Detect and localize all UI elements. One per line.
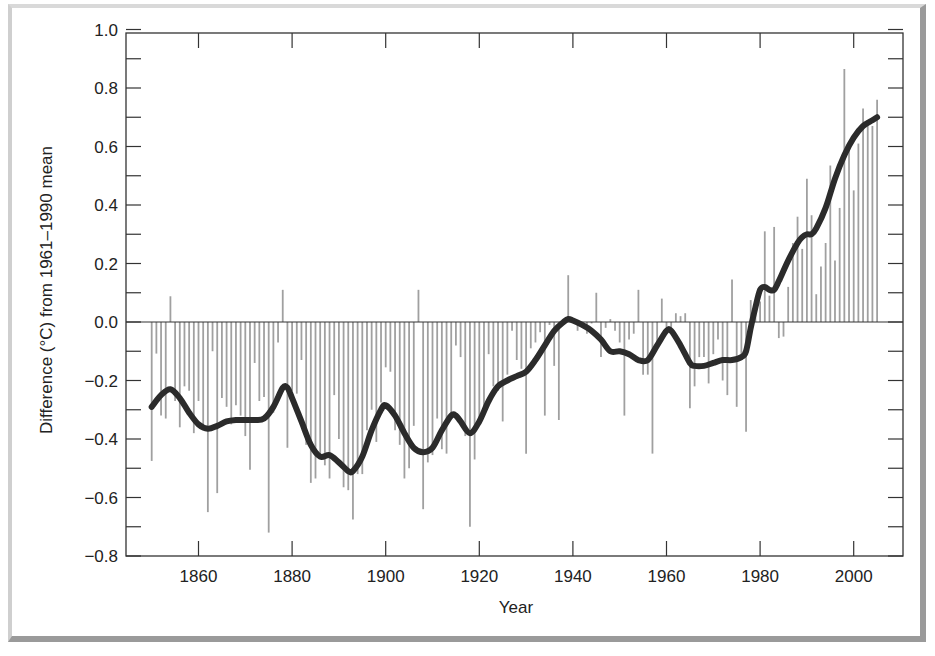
x-tick-label: 2000 (835, 567, 873, 586)
y-tick-label: 0.6 (94, 138, 118, 157)
y-tick-label: 0.4 (94, 196, 118, 215)
y-tick-label: 0.8 (94, 79, 118, 98)
axis-ticks (126, 30, 903, 557)
y-tick-label: −0.8 (84, 547, 118, 566)
x-tick-label: 1940 (554, 567, 592, 586)
y-tick-label: 0.2 (94, 255, 118, 274)
x-tick-label: 1980 (741, 567, 779, 586)
y-tick-label: −0.4 (84, 430, 118, 449)
x-tick-label: 1900 (367, 567, 405, 586)
y-tick-label: 0.0 (94, 313, 118, 332)
y-tick-label: 1.0 (94, 21, 118, 40)
x-tick-label: 1860 (180, 567, 218, 586)
x-tick-label: 1920 (460, 567, 498, 586)
temperature-anomaly-chart: 1.00.80.60.40.20.0−0.2−0.4−0.6−0.8 18601… (0, 0, 935, 656)
y-axis-title: Difference (°C) from 1961–1990 mean (37, 146, 56, 434)
plot-area-border (126, 33, 903, 556)
smoothed-trend-line (152, 117, 877, 472)
y-tick-label: −0.6 (84, 489, 118, 508)
y-tick-label: −0.2 (84, 372, 118, 391)
x-axis-tick-labels: 18601880190019201940196019802000 (180, 567, 873, 586)
x-tick-label: 1960 (648, 567, 686, 586)
x-axis-title: Year (499, 598, 534, 617)
annual-anomaly-bars (152, 69, 877, 533)
x-tick-label: 1880 (273, 567, 311, 586)
y-axis-tick-labels: 1.00.80.60.40.20.0−0.2−0.4−0.6−0.8 (84, 21, 118, 567)
